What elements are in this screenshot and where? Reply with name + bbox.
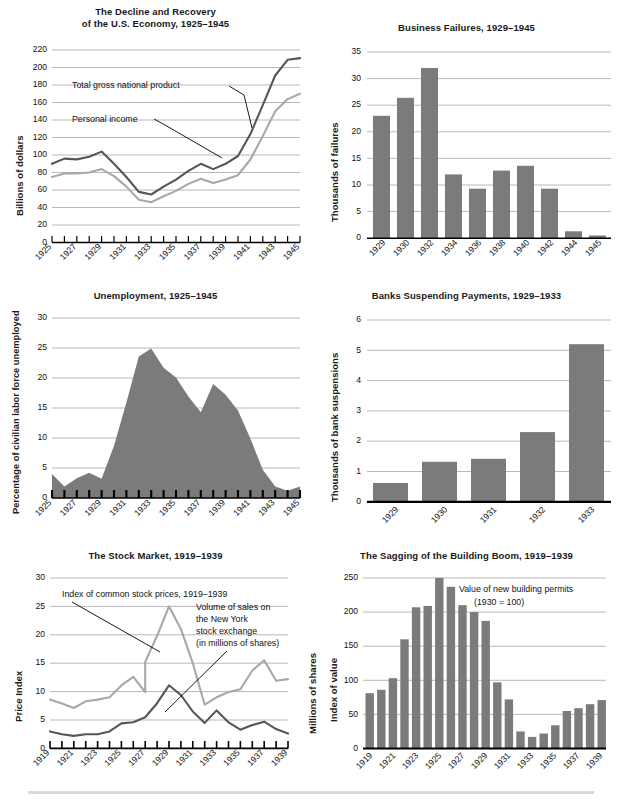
chart-title-building-line1: The Sagging of the Building Boom, 1919–1… xyxy=(311,550,622,562)
svg-text:1941: 1941 xyxy=(231,497,252,518)
svg-text:20: 20 xyxy=(35,629,45,639)
svg-text:6: 6 xyxy=(356,314,361,324)
svg-text:20: 20 xyxy=(37,372,47,382)
svg-text:(1930 = 100): (1930 = 100) xyxy=(474,597,524,607)
svg-text:1942: 1942 xyxy=(535,237,556,258)
svg-text:15: 15 xyxy=(37,402,47,412)
svg-text:30: 30 xyxy=(35,572,45,582)
svg-text:15: 15 xyxy=(35,657,45,667)
svg-text:Volume of sales on: Volume of sales on xyxy=(196,602,270,612)
bars-banks xyxy=(373,344,604,502)
svg-text:200: 200 xyxy=(33,62,48,72)
svg-text:the New York: the New York xyxy=(196,614,248,624)
yaxis-title-building: Index of value xyxy=(328,658,339,722)
svg-text:25: 25 xyxy=(35,601,45,611)
svg-text:140: 140 xyxy=(33,114,48,124)
chart-svg-gnp: 220 200 180 160 140 120 100 80 60 40 20 … xyxy=(0,32,311,272)
svg-text:1933: 1933 xyxy=(132,241,153,262)
svg-text:1919: 1919 xyxy=(31,747,52,768)
yaxis-title-stocks-right-wrap: Millions of shares xyxy=(296,594,310,734)
svg-text:1931: 1931 xyxy=(174,747,195,768)
chart-title-gnp: The Decline and Recovery of the U.S. Eco… xyxy=(0,6,311,29)
chart-svg-building: 250 200 150 100 50 0 xyxy=(311,564,622,788)
chart-panel-stocks: The Stock Market, 1919–1939 30 25 20 15 … xyxy=(0,542,311,792)
svg-text:1935: 1935 xyxy=(157,497,178,518)
svg-text:60: 60 xyxy=(37,184,47,194)
svg-text:1931: 1931 xyxy=(492,750,513,771)
svg-text:1936: 1936 xyxy=(463,237,484,258)
svg-text:1937: 1937 xyxy=(561,750,582,771)
svg-text:Value of new building permits: Value of new building permits xyxy=(459,584,574,594)
svg-text:50: 50 xyxy=(348,709,358,719)
series-line-stock-volume xyxy=(50,685,288,736)
chart-title-gnp-line2: of the U.S. Economy, 1925–1945 xyxy=(0,18,311,30)
svg-text:180: 180 xyxy=(33,79,48,89)
chart-title-gnp-line1: The Decline and Recovery xyxy=(0,6,311,18)
yaxis-title-gnp-wrap: Billions of dollars xyxy=(2,76,16,216)
chart-panel-gnp: The Decline and Recovery of the U.S. Eco… xyxy=(0,6,311,270)
chart-title-banks-line1: Banks Suspending Payments, 1929–1933 xyxy=(311,290,622,302)
svg-text:10: 10 xyxy=(35,686,45,696)
svg-text:1939: 1939 xyxy=(269,747,290,768)
svg-text:1945: 1945 xyxy=(281,241,302,262)
xticks-unemployment xyxy=(52,490,300,498)
yaxis-title-unemployment-wrap: Percentage of civilian labor force unemp… xyxy=(0,296,14,514)
svg-text:15: 15 xyxy=(351,153,361,163)
svg-text:1923: 1923 xyxy=(400,750,421,771)
svg-text:30: 30 xyxy=(351,73,361,83)
svg-text:1943: 1943 xyxy=(256,241,277,262)
xaxis-labels-unemployment: 1925 1927 1929 1931 1933 1935 1937 1939 … xyxy=(33,497,302,518)
yaxis-title-banks-wrap: Thousands of bank suspensions xyxy=(317,322,331,502)
svg-text:1927: 1927 xyxy=(58,241,79,262)
yaxis-labels-unemployment: 30 25 20 15 10 5 0 xyxy=(37,312,47,502)
svg-text:1: 1 xyxy=(356,466,361,476)
svg-text:1921: 1921 xyxy=(55,747,76,768)
svg-text:1932: 1932 xyxy=(527,504,548,525)
svg-text:1939: 1939 xyxy=(584,750,605,771)
chart-title-unemployment: Unemployment, 1925–1945 xyxy=(0,290,311,302)
svg-text:1937: 1937 xyxy=(182,241,203,262)
svg-text:1943: 1943 xyxy=(256,497,277,518)
yaxis-labels-building: 250 200 150 100 50 0 xyxy=(344,572,359,753)
svg-text:1921: 1921 xyxy=(377,750,398,771)
chart-title-stocks: The Stock Market, 1919–1939 xyxy=(0,550,311,562)
svg-text:Index of common stock prices,: Index of common stock prices, 1919–1939 xyxy=(62,589,227,599)
xticks-stocks xyxy=(50,741,288,748)
annotation-building-permits: Value of new building permits (1930 = 10… xyxy=(459,584,574,607)
svg-text:100: 100 xyxy=(344,675,359,685)
svg-text:1919: 1919 xyxy=(354,750,375,771)
svg-text:30: 30 xyxy=(37,312,47,322)
chart-panel-unemployment: Unemployment, 1925–1945 30 25 20 15 10 5… xyxy=(0,276,311,540)
svg-text:4: 4 xyxy=(356,375,361,385)
svg-text:1933: 1933 xyxy=(132,497,153,518)
yaxis-title-stocks: Price Index xyxy=(13,671,24,722)
svg-text:150: 150 xyxy=(344,640,359,650)
svg-text:1945: 1945 xyxy=(281,497,302,518)
svg-text:40: 40 xyxy=(37,202,47,212)
svg-text:1944: 1944 xyxy=(559,237,580,258)
svg-text:1939: 1939 xyxy=(206,241,227,262)
xaxis-labels-gnp: 1925 1927 1929 1931 1933 1935 1937 1939 … xyxy=(33,241,302,262)
chart-title-building: The Sagging of the Building Boom, 1919–1… xyxy=(311,550,622,562)
svg-text:20: 20 xyxy=(37,219,47,229)
chart-svg-stocks: 30 25 20 15 10 5 0 xyxy=(0,564,311,788)
xaxis-labels-banks: 1929 1930 1931 1932 1933 xyxy=(380,504,597,525)
chart-svg-unemployment: 30 25 20 15 10 5 0 xyxy=(0,302,311,540)
yaxis-title-stocks-wrap: Price Index xyxy=(2,612,16,722)
svg-text:1941: 1941 xyxy=(231,241,252,262)
xticks-gnp xyxy=(52,236,300,243)
svg-text:1933: 1933 xyxy=(576,504,597,525)
svg-text:5: 5 xyxy=(356,345,361,355)
series-line-gnp-total xyxy=(52,58,300,194)
xaxis-labels-building: 1919 1921 1923 1925 1927 1929 1931 1933 … xyxy=(354,750,605,771)
yaxis-labels-failures: 35 30 25 20 15 10 5 0 xyxy=(351,46,361,242)
svg-text:5: 5 xyxy=(42,462,47,472)
svg-text:220: 220 xyxy=(33,44,48,54)
svg-text:1935: 1935 xyxy=(157,241,178,262)
bars-failures xyxy=(373,68,606,238)
yaxis-labels-stocks: 30 25 20 15 10 5 0 xyxy=(35,572,45,752)
svg-text:0: 0 xyxy=(356,232,361,242)
svg-text:1925: 1925 xyxy=(33,241,54,262)
svg-text:0: 0 xyxy=(353,743,358,753)
svg-text:1930: 1930 xyxy=(391,237,412,258)
